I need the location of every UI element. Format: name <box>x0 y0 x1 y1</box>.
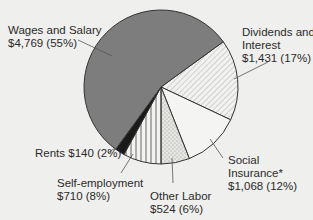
leader-self-employment <box>121 154 133 173</box>
label-self-employment-value: $710 (8%) <box>57 190 143 203</box>
label-wages-value: $4,769 (55%) <box>8 37 102 50</box>
label-wages: Wages and Salary $4,769 (55%) <box>8 24 102 50</box>
label-dividends-value: $1,431 (17%) <box>242 52 313 65</box>
label-other-labor-value: $524 (6%) <box>150 203 211 216</box>
label-rents: Rents $140 (2%) <box>35 147 121 160</box>
label-dividends-name1: Dividends and <box>242 26 313 39</box>
label-rents-text: Rents $140 (2%) <box>35 147 121 160</box>
label-wages-name: Wages and Salary <box>8 24 102 37</box>
label-social-name2: Insurance* <box>228 167 297 180</box>
label-social-value: $1,068 (12%) <box>228 180 297 193</box>
label-self-employment: Self-employment $710 (8%) <box>57 177 143 203</box>
label-dividends: Dividends and Interest $1,431 (17%) <box>242 26 313 65</box>
label-self-employment-name: Self-employment <box>57 177 143 190</box>
label-social-insurance: Social Insurance* $1,068 (12%) <box>228 154 297 193</box>
label-other-labor: Other Labor $524 (6%) <box>150 190 211 216</box>
label-social-name1: Social <box>228 154 297 167</box>
pie-slices <box>84 10 238 164</box>
label-dividends-name2: Interest <box>242 39 313 52</box>
label-other-labor-name: Other Labor <box>150 190 211 203</box>
leader-social <box>210 139 223 158</box>
